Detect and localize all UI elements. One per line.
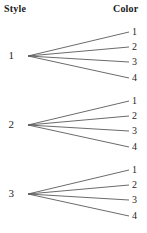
branch-line xyxy=(28,32,129,56)
color-leaf-label: 1 xyxy=(132,27,144,37)
style-node-label: 3 xyxy=(2,188,14,199)
branch-line xyxy=(28,116,129,125)
color-leaf-label: 3 xyxy=(132,57,144,67)
branch-lines-svg xyxy=(0,0,147,233)
column-header-style: Style xyxy=(4,4,26,14)
style-node-label: 2 xyxy=(2,119,14,130)
branch-line xyxy=(28,101,129,125)
color-leaf-label: 3 xyxy=(132,126,144,136)
branch-line-group xyxy=(28,32,129,216)
color-leaf-label: 4 xyxy=(132,211,144,221)
column-header-color: Color xyxy=(113,4,138,14)
color-leaf-label: 2 xyxy=(132,42,144,52)
branch-line xyxy=(28,170,129,194)
color-leaf-label: 1 xyxy=(132,165,144,175)
color-leaf-label: 3 xyxy=(132,195,144,205)
branch-line xyxy=(28,185,129,194)
style-node-label: 1 xyxy=(2,50,14,61)
tree-diagram: Style Color 112342123431234 xyxy=(0,0,147,233)
color-leaf-label: 2 xyxy=(132,180,144,190)
color-leaf-label: 4 xyxy=(132,73,144,83)
color-leaf-label: 2 xyxy=(132,111,144,121)
color-leaf-label: 4 xyxy=(132,142,144,152)
color-leaf-label: 1 xyxy=(132,96,144,106)
branch-line xyxy=(28,47,129,56)
